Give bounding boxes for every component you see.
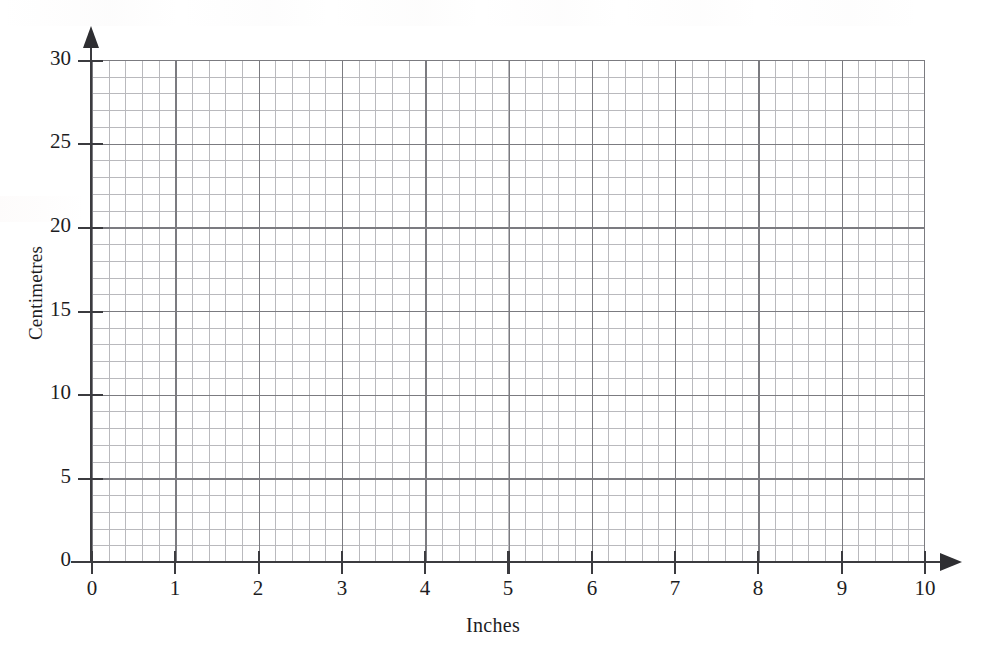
x-axis-tick (91, 551, 93, 574)
y-axis-title: Centimetres (25, 213, 47, 373)
y-axis-tick (78, 311, 103, 313)
x-axis-tick-label: 5 (478, 578, 538, 599)
y-axis-tick-label: 10 (11, 382, 71, 403)
y-axis-tick (78, 394, 103, 396)
x-axis-tick (674, 551, 676, 574)
x-axis-tick-label: 2 (228, 578, 288, 599)
x-axis-tick-label: 4 (395, 578, 455, 599)
plot-grid-area (92, 60, 925, 562)
grid-border-top (92, 60, 925, 61)
x-axis-tick-label: 8 (728, 578, 788, 599)
y-axis-tick-label: 25 (11, 131, 71, 152)
arrow-up-icon (83, 26, 99, 48)
graph-page: 30 25 20 15 10 5 0 0 1 2 3 4 5 6 7 8 9 1… (0, 0, 986, 662)
x-axis-tick (424, 551, 426, 574)
x-axis-tick-label: 10 (895, 578, 955, 599)
y-axis-tick (78, 143, 103, 145)
x-axis-tick-label: 3 (312, 578, 372, 599)
x-axis-tick (591, 551, 593, 574)
y-axis-tick (78, 227, 103, 229)
x-axis-tick (258, 551, 260, 574)
y-axis-tick-label: 30 (11, 48, 71, 69)
x-axis-tick-label: 0 (62, 578, 122, 599)
x-axis-tick (174, 551, 176, 574)
x-axis-line (71, 561, 955, 563)
x-axis-title: Inches (0, 614, 986, 637)
y-axis-tick-label: 0 (11, 549, 71, 570)
x-axis-tick-label: 7 (645, 578, 705, 599)
y-axis-tick-label: 5 (11, 466, 71, 487)
y-axis-tick (78, 478, 103, 480)
y-axis-tick (78, 60, 103, 62)
x-axis-tick (924, 551, 926, 574)
x-axis-tick (757, 551, 759, 574)
x-axis-tick (341, 551, 343, 574)
y-axis-line (90, 42, 92, 563)
x-axis-tick-label: 6 (562, 578, 622, 599)
arrow-right-icon (940, 553, 962, 571)
x-axis-tick-label: 1 (145, 578, 205, 599)
x-axis-tick (507, 551, 509, 574)
grid-major-lines (92, 60, 925, 562)
x-axis-tick (841, 551, 843, 574)
grid-border-right (924, 60, 925, 562)
x-axis-tick-label: 9 (812, 578, 872, 599)
scan-artifact-top (0, 0, 986, 26)
